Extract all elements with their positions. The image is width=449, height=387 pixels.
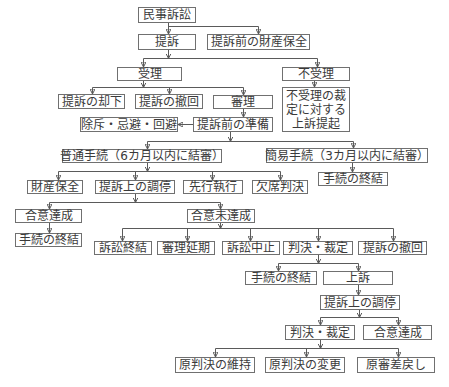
- node-trial: 審理: [213, 95, 273, 109]
- node-appeal: 上訴: [323, 271, 393, 285]
- node-civil-litigation: 民事訴訟: [138, 7, 196, 23]
- node-litigation-concluded: 訴訟終結: [94, 241, 152, 255]
- node-appeal-judgment-ruling: 判決・裁定: [285, 325, 355, 340]
- node-pre-suit-preparation: 提訴前の準備: [193, 117, 273, 132]
- node-not-accepted: 不受理: [282, 67, 350, 81]
- node-pre-suit-asset-preservation: 提訴前の財産保全: [207, 34, 310, 50]
- node-original-judgment-changed: 原判決の変更: [265, 357, 345, 373]
- node-accepted: 受理: [117, 67, 182, 81]
- node-ordinary-procedure: 普通手続（6カ月以内に結審）: [62, 149, 222, 163]
- node-litigation-suspended: 訴訟中止: [222, 241, 280, 255]
- node-procedure-end-summary: 手続の終結: [318, 172, 388, 186]
- node-line: 上訴提起: [292, 117, 340, 131]
- node-suit-withdrawn-2: 提訴の撤回: [358, 241, 427, 255]
- node-agreement-not-reached: 合意未達成: [187, 209, 255, 223]
- node-summary-procedure: 簡易手続（3カ月以内に結審）: [266, 148, 428, 163]
- node-appeal-agreement-reached: 合意達成: [363, 325, 432, 340]
- node-procedure-end-agreement: 手続の終結: [15, 233, 82, 247]
- node-appeal-mediation: 提訴上の調停: [320, 295, 400, 310]
- node-line: 定に対する: [286, 103, 346, 117]
- node-trial-postponed: 審理延期: [157, 241, 215, 255]
- node-suit-withdrawn: 提訴の撤回: [135, 94, 203, 109]
- node-asset-preservation: 財産保全: [27, 180, 83, 194]
- node-judgment-ruling: 判決・裁定: [283, 241, 353, 255]
- node-procedure-end-judgment: 手続の終結: [245, 271, 317, 285]
- node-file-suit: 提訴: [138, 34, 196, 50]
- node-appeal-against-non-acceptance: 不受理の裁 定に対する 上訴提起: [282, 87, 350, 132]
- node-preliminary-execution: 先行執行: [183, 180, 243, 194]
- node-line: 不受理の裁: [286, 89, 346, 103]
- node-suit-dismissed: 提訴の却下: [58, 94, 125, 109]
- node-original-judgment-upheld: 原判決の維持: [175, 357, 255, 373]
- node-mediation: 提訴上の調停: [95, 180, 175, 194]
- node-remanded: 原審差戻し: [357, 357, 435, 373]
- node-agreement-reached: 合意達成: [15, 209, 82, 223]
- node-default-judgment: 欠席判決: [252, 180, 308, 194]
- node-recusal: 除斥・忌避・回避: [80, 117, 178, 132]
- civil-litigation-flowchart: 民事訴訟 提訴 提訴前の財産保全 受理 不受理 提訴の却下 提訴の撤回 審理 不…: [0, 0, 449, 387]
